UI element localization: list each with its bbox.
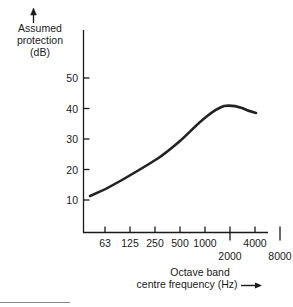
y-tick-label-30: 30: [54, 133, 78, 145]
chart-figure: Assumed protection (dB) 10 20 30 40 50 6…: [0, 0, 293, 307]
y-axis-title-line2: protection: [2, 34, 78, 46]
x-tick-label-4000: 4000: [237, 237, 273, 249]
x-axis-title-line1: Octave band: [120, 266, 280, 278]
x-axis-title-line2: centre frequency (Hz): [137, 278, 238, 290]
x-axis-title: Octave band centre frequency (Hz): [120, 266, 280, 290]
right-arrow-icon: [241, 281, 263, 290]
up-arrow-icon: [31, 8, 37, 23]
data-curve-assumed-protection: [90, 106, 256, 196]
x-tick-label-2000: 2000: [212, 250, 248, 262]
y-axis-title-line1: Assumed: [2, 22, 78, 34]
y-tick-label-40: 40: [54, 103, 78, 115]
y-tick-label-50: 50: [54, 72, 78, 84]
y-tick-label-20: 20: [54, 164, 78, 176]
y-axis-ticks: [84, 78, 90, 200]
x-tick-label-8000: 8000: [262, 250, 293, 262]
x-tick-label-1000: 1000: [187, 237, 223, 249]
y-axis-title: Assumed protection (dB): [2, 22, 78, 58]
y-tick-label-10: 10: [54, 194, 78, 206]
page-rule: [0, 302, 70, 303]
y-axis-title-line3: (dB): [2, 46, 78, 58]
